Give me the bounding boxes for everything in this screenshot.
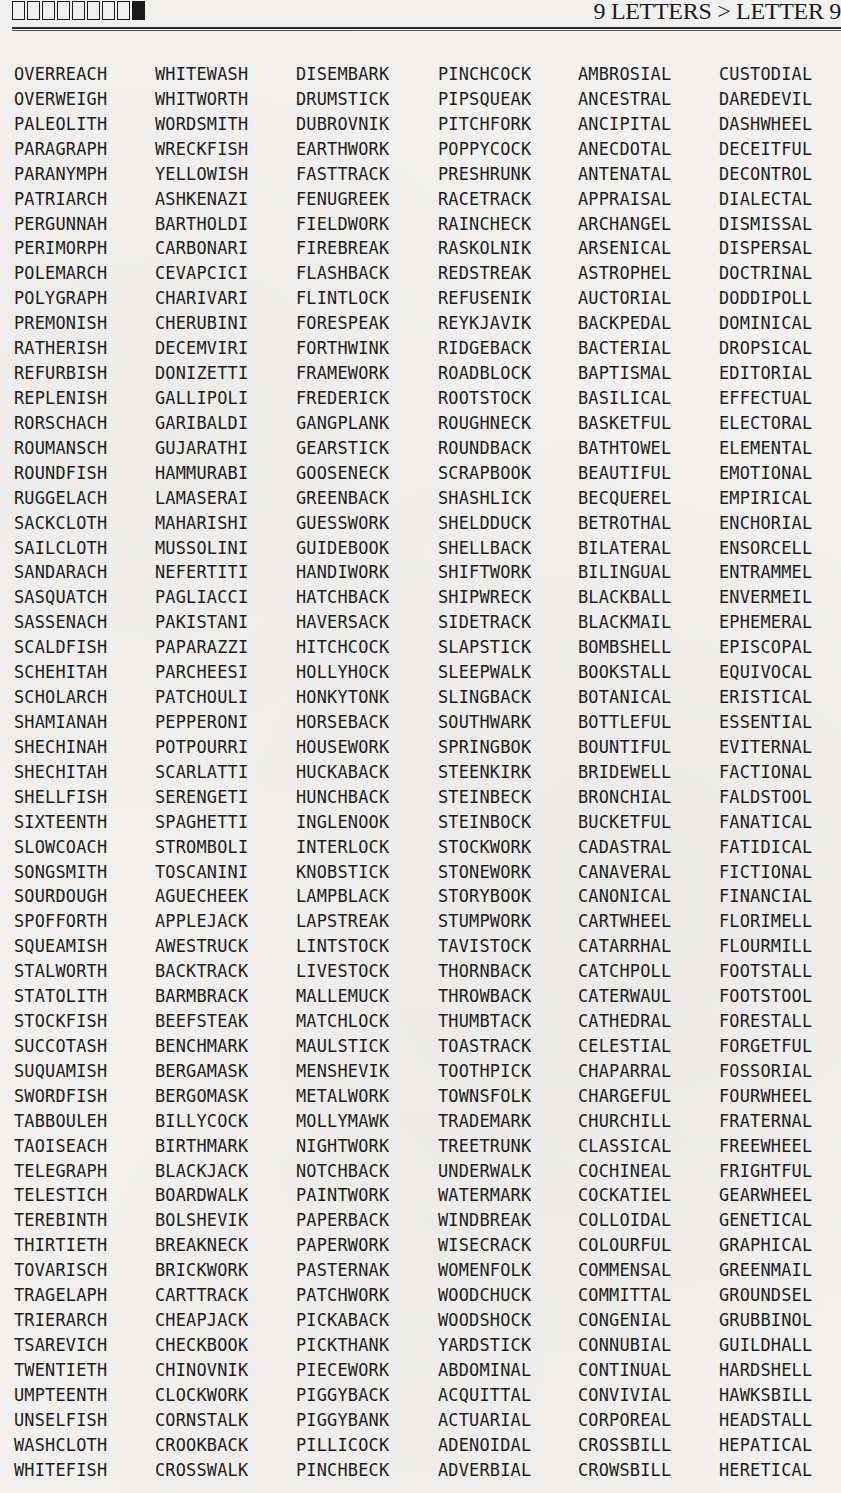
word-entry: AGUECHEEK [155, 884, 248, 908]
word-row: TSAREVICHCHECKBOOKPICKTHANKYARDSTICKCONN… [0, 1333, 841, 1358]
word-entry: WASHCLOTH [14, 1433, 107, 1457]
word-entry: FIREBREAK [296, 236, 389, 260]
word-row: SUCCOTASHBENCHMARKMAULSTICKTOASTRACKCELE… [0, 1034, 841, 1059]
word-row: SASQUATCHPAGLIACCIHATCHBACKSHIPWRECKBLAC… [0, 585, 841, 610]
word-entry: CONTINUAL [578, 1358, 671, 1382]
word-entry: CARBONARI [155, 236, 248, 260]
letter-box-empty-icon [117, 1, 130, 20]
word-entry: GRUBBINOL [719, 1308, 812, 1332]
word-entry: ACTUARIAL [438, 1408, 531, 1432]
word-entry: EMOTIONAL [719, 461, 812, 485]
word-entry: DISMISSAL [719, 212, 812, 236]
word-entry: ROUGHNECK [438, 411, 531, 435]
word-entry: REPLENISH [14, 386, 107, 410]
word-entry: BLACKBALL [578, 585, 671, 609]
word-entry: EVITERNAL [719, 735, 812, 759]
word-entry: STORYBOOK [438, 884, 531, 908]
word-row: TWENTIETHCHINOVNIKPIECEWORKABDOMINALCONT… [0, 1358, 841, 1383]
word-entry: CATERWAUL [578, 984, 671, 1008]
word-entry: TEREBINTH [14, 1208, 107, 1232]
word-entry: ABDOMINAL [438, 1358, 531, 1382]
word-entry: BLACKMAIL [578, 610, 671, 634]
word-entry: OVERREACH [14, 62, 107, 86]
word-row: SANDARACHNEFERTITIHANDIWORKSHIFTWORKBILI… [0, 560, 841, 585]
word-entry: ARSENICAL [578, 236, 671, 260]
word-entry: COMMENSAL [578, 1258, 671, 1282]
word-entry: THUMBTACK [438, 1009, 531, 1033]
word-row: RUGGELACHLAMASERAIGREENBACKSHASHLICKBECQ… [0, 486, 841, 511]
word-entry: TOVARISCH [14, 1258, 107, 1282]
word-entry: HAVERSACK [296, 610, 389, 634]
word-entry: MAULSTICK [296, 1034, 389, 1058]
word-entry: BOLSHEVIK [155, 1208, 248, 1232]
word-entry: CATCHPOLL [578, 959, 671, 983]
word-entry: SHELLBACK [438, 536, 531, 560]
word-entry: SCHEHITAH [14, 660, 107, 684]
word-entry: SQUEAMISH [14, 934, 107, 958]
word-entry: BOARDWALK [155, 1183, 248, 1207]
letter-box-empty-icon [57, 1, 70, 20]
word-entry: SIXTEENTH [14, 810, 107, 834]
word-row: SHECHITAHSCARLATTIHUCKABACKSTEENKIRKBRID… [0, 760, 841, 785]
word-row: TEREBINTHBOLSHEVIKPAPERBACKWINDBREAKCOLL… [0, 1208, 841, 1233]
word-entry: BOTTLEFUL [578, 710, 671, 734]
word-entry: BASILICAL [578, 386, 671, 410]
word-entry: CROSSBILL [578, 1433, 671, 1457]
word-entry: POTPOURRI [155, 735, 248, 759]
word-entry: WORDSMITH [155, 112, 248, 136]
word-row: REPLENISHGALLIPOLIFREDERICKROOTSTOCKBASI… [0, 386, 841, 411]
word-entry: CELESTIAL [578, 1034, 671, 1058]
word-entry: PERGUNNAH [14, 212, 107, 236]
word-row: SWORDFISHBERGOMASKMETALWORKTOWNSFOLKCHAR… [0, 1084, 841, 1109]
word-entry: DOCTRINAL [719, 261, 812, 285]
word-entry: BILLYCOCK [155, 1109, 248, 1133]
word-entry: POLYGRAPH [14, 286, 107, 310]
word-entry: LINTSTOCK [296, 934, 389, 958]
word-entry: FRIGHTFUL [719, 1159, 812, 1183]
word-entry: BERGAMASK [155, 1059, 248, 1083]
word-entry: BATHTOWEL [578, 436, 671, 460]
word-entry: PARCHEESI [155, 660, 248, 684]
word-entry: SHELLFISH [14, 785, 107, 809]
word-entry: SLAPSTICK [438, 635, 531, 659]
word-row: PALEOLITHWORDSMITHDUBROVNIKPITCHFORKANCI… [0, 112, 841, 137]
word-entry: CUSTODIAL [719, 62, 812, 86]
word-entry: BENCHMARK [155, 1034, 248, 1058]
word-row: SQUEAMISHAWESTRUCKLINTSTOCKTAVISTOCKCATA… [0, 934, 841, 959]
word-entry: ADENOIDAL [438, 1433, 531, 1457]
word-entry: FACTIONAL [719, 760, 812, 784]
word-entry: HOLLYHOCK [296, 660, 389, 684]
word-entry: ENTRAMMEL [719, 560, 812, 584]
word-entry: SASSENACH [14, 610, 107, 634]
word-entry: FINANCIAL [719, 884, 812, 908]
word-entry: CONNUBIAL [578, 1333, 671, 1357]
word-entry: TOOTHPICK [438, 1059, 531, 1083]
word-row: PERGUNNAHBARTHOLDIFIELDWORKRAINCHECKARCH… [0, 212, 841, 237]
word-row: STOCKFISHBEEFSTEAKMATCHLOCKTHUMBTACKCATH… [0, 1009, 841, 1034]
word-entry: TOWNSFOLK [438, 1084, 531, 1108]
word-entry: HEPATICAL [719, 1433, 812, 1457]
word-entry: FLINTLOCK [296, 286, 389, 310]
word-row: OVERWEIGHWHITWORTHDRUMSTICKPIPSQUEAKANCE… [0, 87, 841, 112]
word-entry: CORPOREAL [578, 1408, 671, 1432]
word-entry: FORESTALL [719, 1009, 812, 1033]
word-entry: SHIFTWORK [438, 560, 531, 584]
word-entry: HONKYTONK [296, 685, 389, 709]
word-entry: CROOKBACK [155, 1433, 248, 1457]
word-entry: HUNCHBACK [296, 785, 389, 809]
word-entry: AWESTRUCK [155, 934, 248, 958]
word-entry: PAKISTANI [155, 610, 248, 634]
word-entry: BACKPEDAL [578, 311, 671, 335]
word-entry: GEARWHEEL [719, 1183, 812, 1207]
word-row: REFURBISHDONIZETTIFRAMEWORKROADBLOCKBAPT… [0, 361, 841, 386]
word-entry: FLASHBACK [296, 261, 389, 285]
word-row: STALWORTHBACKTRACKLIVESTOCKTHORNBACKCATC… [0, 959, 841, 984]
word-entry: ESSENTIAL [719, 710, 812, 734]
word-entry: PAPERBACK [296, 1208, 389, 1232]
word-entry: RASKOLNIK [438, 236, 531, 260]
word-entry: TELEGRAPH [14, 1159, 107, 1183]
word-entry: THIRTIETH [14, 1233, 107, 1257]
word-row: POLYGRAPHCHARIVARIFLINTLOCKREFUSENIKAUCT… [0, 286, 841, 311]
word-entry: ANCIPITAL [578, 112, 671, 136]
word-entry: HORSEBACK [296, 710, 389, 734]
